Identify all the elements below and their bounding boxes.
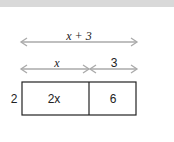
total-width-label: x + 3: [65, 29, 91, 43]
x-width-label: x: [53, 56, 60, 70]
area-model-diagram: x + 3 x 3 2 2x 6: [0, 0, 174, 142]
cell-2x: 2x: [48, 92, 61, 106]
height-label: 2: [11, 92, 18, 106]
area-rectangle: [22, 82, 136, 115]
three-width-label: 3: [111, 56, 118, 70]
cell-6: 6: [110, 92, 117, 106]
